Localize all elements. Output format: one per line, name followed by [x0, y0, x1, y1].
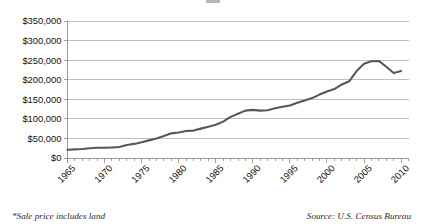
x-axis-labels-group: 1965197019751980198519901995200020052010: [55, 162, 411, 185]
x-axis-tick-label: 1965: [55, 162, 78, 185]
y-axis-tick-label: $0: [51, 152, 61, 163]
x-axis-tick-label: 1980: [166, 162, 189, 185]
y-axis-tick-label: $250,000: [22, 55, 61, 66]
y-axis-tick-label: $50,000: [28, 133, 62, 144]
x-axis-tick-label: 1970: [92, 162, 115, 185]
footnote-sale-price: *Sale price includes land: [12, 211, 105, 221]
tick-marks-group: [64, 21, 409, 163]
x-axis-tick-label: 1990: [240, 162, 263, 185]
y-axis-tick-label: $100,000: [22, 113, 61, 124]
y-axis-tick-label: $300,000: [22, 35, 61, 46]
line-chart: $0$50,000$100,000$150,000$200,000$250,00…: [0, 0, 421, 224]
chart-figure: $0$50,000$100,000$150,000$200,000$250,00…: [0, 0, 421, 224]
y-axis-tick-label: $200,000: [22, 74, 61, 85]
x-axis-tick-label: 1975: [129, 162, 152, 185]
gridlines-group: [68, 21, 409, 158]
x-axis-tick-label: 1995: [277, 162, 300, 185]
y-axis-labels-group: $0$50,000$100,000$150,000$200,000$250,00…: [22, 15, 61, 163]
y-axis-tick-label: $150,000: [22, 94, 61, 105]
footnote-source: Source: U.S. Census Bureau: [307, 211, 411, 221]
x-axis-tick-label: 2000: [314, 162, 337, 185]
series-line-median-sales-price: [68, 61, 402, 150]
x-axis-tick-label: 1985: [203, 162, 226, 185]
y-axis-tick-label: $350,000: [22, 15, 61, 26]
axes-group: [68, 21, 409, 158]
x-axis-tick-label: 2005: [351, 162, 374, 185]
x-axis-tick-label: 2010: [388, 162, 411, 185]
data-series-group: [68, 61, 402, 150]
